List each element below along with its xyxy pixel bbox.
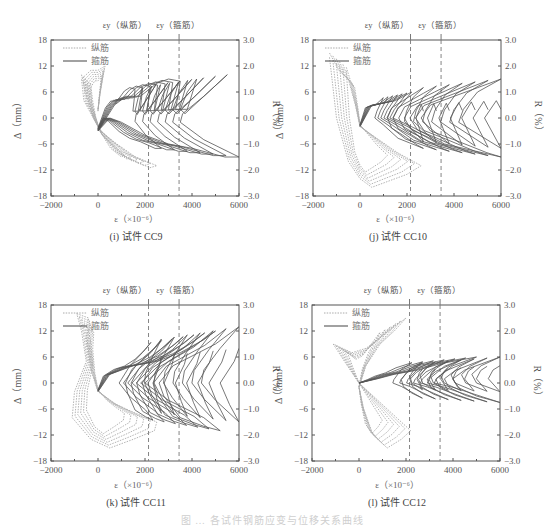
y-right-axis-label: R（%） — [532, 366, 543, 401]
x-tick-label: −2000 — [300, 465, 324, 475]
stirrup-curve — [360, 80, 488, 155]
y-right-tick-label: 3.0 — [243, 35, 255, 45]
legend-longitudinal-label: 纵筋 — [353, 42, 371, 53]
panel-caption: (k) 试件 CC11 — [0, 494, 272, 509]
y-tick-label: −12 — [33, 430, 47, 440]
x-tick-label: −2000 — [39, 465, 63, 475]
y-right-axis-label: R（%） — [533, 101, 544, 136]
y-right-tick-label: 0.0 — [243, 378, 255, 388]
legend-stirrup-label: 箍筋 — [352, 320, 370, 331]
y-tick-label: 0 — [304, 378, 309, 388]
x-tick-label: 0 — [358, 200, 363, 210]
x-tick-label: 6000 — [491, 465, 510, 475]
y-right-tick-label: 1.0 — [504, 352, 516, 362]
longitudinal-bar-curve — [89, 75, 131, 159]
y-right-tick-label: 0.0 — [505, 113, 517, 123]
x-axis-label: ε（×10⁻⁶） — [262, 212, 534, 225]
stirrup-curve — [98, 337, 174, 422]
yield-strain-label: εy（箍筋） — [418, 20, 462, 30]
y-tick-label: −18 — [33, 456, 48, 466]
y-tick-label: 12 — [38, 61, 47, 71]
y-tick-label: −18 — [295, 191, 310, 201]
y-tick-label: −6 — [37, 139, 47, 149]
x-tick-label: 4000 — [444, 465, 463, 475]
y-tick-label: 0 — [43, 378, 48, 388]
x-tick-label: 2000 — [397, 465, 416, 475]
legend-stirrup-label: 箍筋 — [353, 55, 371, 66]
y-right-tick-label: −2.0 — [243, 165, 260, 175]
y-axis-label: Δ（mm） — [12, 362, 23, 404]
y-right-tick-label: −1.0 — [243, 139, 260, 149]
y-right-tick-label: −1.0 — [504, 404, 521, 414]
x-tick-label: 0 — [96, 200, 101, 210]
panel-caption: (j) 试件 CC10 — [262, 228, 534, 243]
plot-frame — [51, 40, 239, 196]
plot-frame — [312, 305, 500, 461]
x-axis-label: ε（×10⁻⁶） — [261, 478, 533, 491]
y-tick-label: 18 — [38, 300, 48, 310]
x-tick-label: 0 — [357, 465, 362, 475]
y-right-tick-label: −2.0 — [505, 165, 522, 175]
chart-panel-cc11: −20000200040006000−18−12−6061218−3.0−2.0… — [0, 265, 272, 527]
yield-strain-label: εy（箍筋） — [156, 20, 200, 30]
x-axis-label: ε（×10⁻⁶） — [0, 212, 272, 225]
y-right-tick-label: 1.0 — [505, 87, 517, 97]
longitudinal-bar-curve — [330, 53, 422, 187]
yield-strain-label: εy（纵筋） — [103, 20, 147, 30]
legend-longitudinal-label: 纵筋 — [91, 307, 109, 318]
x-tick-label: 2000 — [398, 200, 417, 210]
x-tick-label: 6000 — [230, 200, 249, 210]
panel-caption: (l) 试件 CC12 — [261, 494, 533, 509]
y-right-tick-label: 2.0 — [505, 61, 517, 71]
y-right-tick-label: −3.0 — [505, 191, 522, 201]
y-axis-label: Δ（mm） — [273, 362, 284, 404]
legend-stirrup-label: 箍筋 — [91, 320, 109, 331]
y-right-tick-label: 1.0 — [243, 352, 255, 362]
x-tick-label: 4000 — [183, 200, 202, 210]
x-tick-label: −2000 — [301, 200, 325, 210]
y-tick-label: −12 — [33, 165, 47, 175]
yield-strain-label: εy（纵筋） — [365, 20, 409, 30]
y-right-tick-label: −2.0 — [504, 430, 521, 440]
legend-stirrup-label: 箍筋 — [91, 55, 109, 66]
stirrup-curve — [360, 86, 436, 150]
longitudinal-bar-curve — [333, 318, 411, 448]
y-tick-label: 18 — [299, 300, 309, 310]
x-tick-label: 4000 — [183, 465, 202, 475]
y-tick-label: −18 — [294, 456, 309, 466]
x-tick-label: 0 — [96, 465, 101, 475]
y-axis-label: Δ（mm） — [274, 97, 285, 139]
y-right-tick-label: −1.0 — [505, 139, 522, 149]
y-right-tick-label: −3.0 — [504, 456, 521, 466]
x-tick-label: 2000 — [136, 200, 155, 210]
chart-panel-cc9: −20000200040006000−18−12−6061218−3.0−2.0… — [0, 0, 272, 262]
y-right-tick-label: −3.0 — [243, 191, 260, 201]
y-right-tick-label: 0.0 — [504, 378, 516, 388]
y-tick-label: 0 — [43, 113, 48, 123]
x-axis-label: ε（×10⁻⁶） — [0, 478, 272, 491]
y-tick-label: 18 — [38, 35, 48, 45]
y-tick-label: 12 — [299, 326, 308, 336]
x-tick-label: 2000 — [136, 465, 155, 475]
y-right-tick-label: 2.0 — [504, 326, 516, 336]
legend-longitudinal-label: 纵筋 — [91, 42, 109, 53]
yield-strain-label: εy（箍筋） — [156, 285, 200, 295]
legend-longitudinal-label: 纵筋 — [352, 307, 370, 318]
figure-caption: 图 … 各试件钢筋应变与位移关系曲线 — [0, 512, 544, 527]
y-tick-label: −12 — [295, 165, 309, 175]
chart-panel-cc10: −20000200040006000−18−12−6061218−3.0−2.0… — [262, 0, 534, 262]
y-tick-label: 6 — [304, 352, 309, 362]
x-tick-label: −2000 — [39, 200, 63, 210]
x-tick-label: 6000 — [492, 200, 511, 210]
longitudinal-bar-curve — [83, 68, 150, 165]
y-tick-label: −12 — [294, 430, 308, 440]
y-right-tick-label: −2.0 — [243, 430, 260, 440]
y-right-tick-label: 1.0 — [243, 87, 255, 97]
y-tick-label: 6 — [305, 87, 310, 97]
y-tick-label: 0 — [305, 113, 310, 123]
y-tick-label: −6 — [299, 139, 309, 149]
y-right-tick-label: 2.0 — [243, 61, 255, 71]
y-tick-label: −6 — [37, 404, 47, 414]
y-right-tick-label: 0.0 — [243, 113, 255, 123]
y-right-tick-label: 3.0 — [505, 35, 517, 45]
